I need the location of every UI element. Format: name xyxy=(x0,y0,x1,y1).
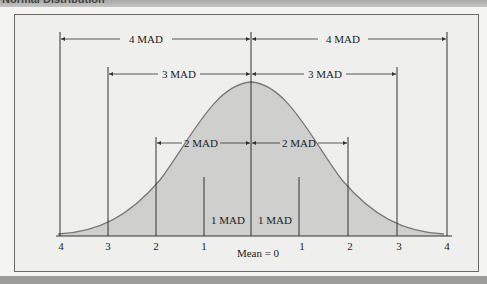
label-3mad-left: 3 MAD xyxy=(162,68,196,80)
tick-neg3: 3 xyxy=(105,240,111,252)
label-3mad-right: 3 MAD xyxy=(308,68,342,80)
label-4mad-right: 4 MAD xyxy=(326,33,360,45)
tick-pos4: 4 xyxy=(444,240,450,252)
label-2mad-right: 2 MAD xyxy=(282,137,316,149)
tick-pos3: 3 xyxy=(396,240,402,252)
label-2mad-left: 2 MAD xyxy=(184,137,218,149)
normal-distribution-diagram: 4 MAD 4 MAD 3 MAD 3 MAD 2 MAD 2 MAD 1 MA… xyxy=(0,0,487,284)
footer-bar xyxy=(0,276,487,284)
tick-neg2: 2 xyxy=(153,240,159,252)
tick-neg1: 1 xyxy=(201,240,207,252)
tick-pos1: 1 xyxy=(299,240,305,252)
tick-pos2: 2 xyxy=(347,240,353,252)
tick-neg4: 4 xyxy=(58,240,64,252)
mean-label: Mean = 0 xyxy=(237,247,280,259)
label-4mad-left: 4 MAD xyxy=(129,33,163,45)
label-1mad-right: 1 MAD xyxy=(258,214,292,226)
label-1mad-left: 1 MAD xyxy=(211,214,245,226)
